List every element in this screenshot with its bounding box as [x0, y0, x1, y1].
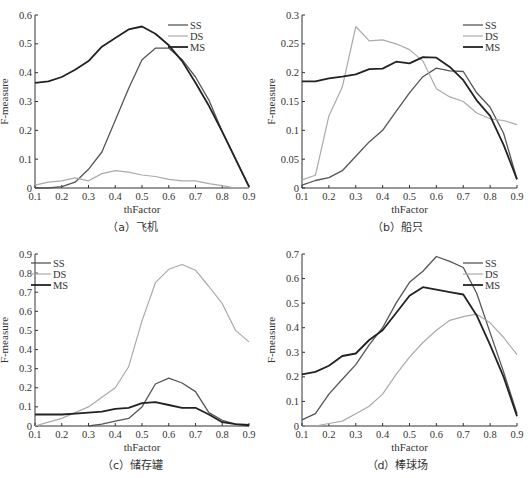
x-axis-title: thFactor — [391, 441, 428, 453]
x-tick-label: 0.1 — [295, 429, 308, 440]
x-tick-label: 0.6 — [430, 429, 443, 440]
y-tick-label: 0.1 — [286, 396, 299, 407]
chart-caption: （d）棒球场 — [265, 456, 530, 472]
legend-label: MS — [485, 280, 500, 291]
y-tick-label: 0.2 — [286, 371, 299, 382]
y-tick-label: 0.4 — [286, 322, 300, 333]
legend: SSDSMS — [463, 258, 500, 291]
chart-panel-d: 00.10.20.30.40.50.60.70.10.20.30.40.50.6… — [0, 0, 265, 239]
legend-label: DS — [485, 269, 499, 280]
y-tick-label: 0.3 — [286, 347, 299, 358]
x-tick-label: 0.2 — [322, 429, 335, 440]
legend-label: SS — [485, 258, 497, 269]
chart-plot: 00.10.20.30.40.50.60.70.10.20.30.40.50.6… — [0, 0, 530, 478]
y-tick-label: 0.6 — [286, 273, 299, 284]
y-axis-title: F-measure — [265, 317, 277, 364]
y-tick-label: 0.7 — [286, 249, 299, 260]
x-tick-label: 0.3 — [349, 429, 362, 440]
x-tick-label: 0.9 — [510, 429, 523, 440]
y-tick-label: 0.5 — [286, 298, 299, 309]
x-tick-label: 0.4 — [376, 429, 390, 440]
x-tick-label: 0.5 — [403, 429, 416, 440]
x-tick-label: 0.7 — [457, 429, 470, 440]
x-tick-label: 0.8 — [484, 429, 497, 440]
series-line-ms — [302, 287, 517, 416]
